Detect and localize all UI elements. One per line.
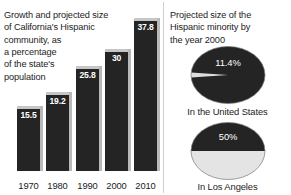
heading-line: Hispanic minority by xyxy=(170,21,291,33)
pie-graphic: 50% xyxy=(190,122,266,180)
x-axis-labels: 19701980199020002010 xyxy=(0,177,163,191)
bar-rect: 19.2 xyxy=(46,95,69,171)
bar-1990: 25.8 xyxy=(76,69,99,171)
bar-1970: 15.5 xyxy=(17,109,40,171)
infographic-figure: Growth and projected size of California'… xyxy=(0,0,291,195)
bar-1980: 19.2 xyxy=(46,95,69,171)
pie-chart-panel: Projected size of the Hispanic minority … xyxy=(164,0,291,195)
pie-chart-heading: Projected size of the Hispanic minority … xyxy=(170,9,291,46)
x-axis-label-2000: 2000 xyxy=(102,180,131,191)
pie-caption: In the United States xyxy=(164,106,291,117)
pie-graphic: 11.4% xyxy=(190,46,266,104)
bar-rect: 15.5 xyxy=(17,109,40,171)
heading-line: Projected size of the xyxy=(170,9,291,21)
pie-value-label: 50% xyxy=(190,131,266,142)
pie-slice-other xyxy=(191,151,265,180)
bar-rect: 37.8 xyxy=(134,21,157,171)
bar-2010: 37.8 xyxy=(134,21,157,171)
pie-svg-us xyxy=(190,46,266,104)
bar-value-label: 37.8 xyxy=(134,22,157,32)
bar-rect: 30 xyxy=(105,52,128,171)
x-axis-label-1970: 1970 xyxy=(14,180,43,191)
heading-line: the year 2000 xyxy=(170,34,291,46)
x-axis-label-1980: 1980 xyxy=(43,180,72,191)
bar-2000: 30 xyxy=(105,52,128,171)
pie-value-label: 11.4% xyxy=(190,57,266,68)
bar-value-label: 25.8 xyxy=(76,70,99,80)
bar-value-label: 30 xyxy=(105,53,128,63)
bar-rect: 25.8 xyxy=(76,69,99,171)
x-axis-label-1990: 1990 xyxy=(73,180,102,191)
bar-value-label: 15.5 xyxy=(17,110,40,120)
pie-caption: In Los Angeles xyxy=(164,181,291,192)
x-axis-label-2010: 2010 xyxy=(131,180,160,191)
bar-value-label: 19.2 xyxy=(46,96,69,106)
bar-series: 15.519.225.83037.8 xyxy=(0,0,163,195)
bar-chart-panel: Growth and projected size of California'… xyxy=(0,0,163,195)
